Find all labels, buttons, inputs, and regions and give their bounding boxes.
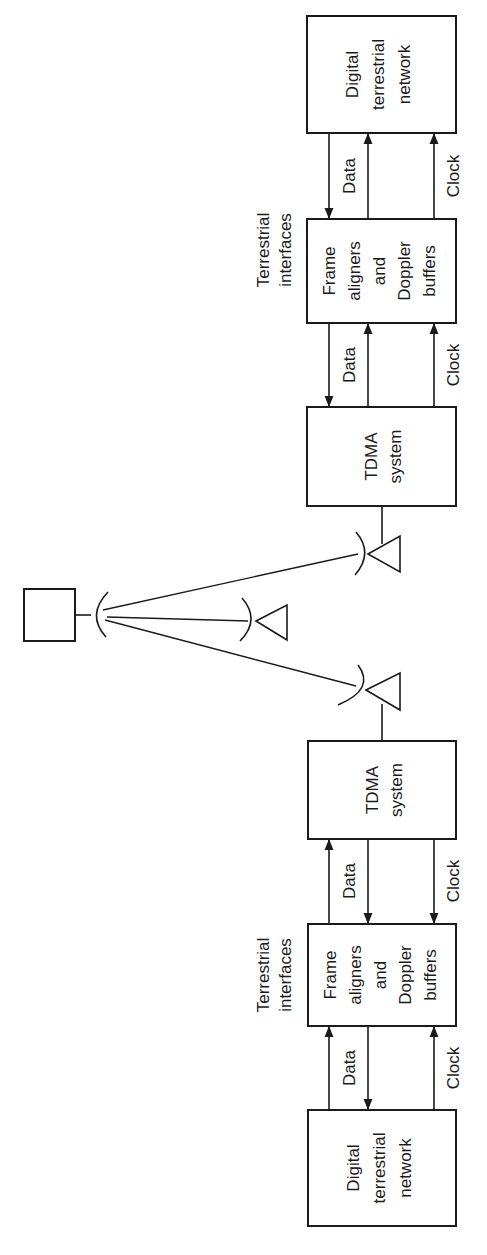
network-box-b: Digital terrestrial network <box>307 16 456 133</box>
network-box-b-line2: terrestrial <box>369 39 388 110</box>
clock-label: Clock <box>444 859 463 902</box>
earth-antenna-a-icon <box>338 665 400 710</box>
buffer-box-b: Frame aligners and Doppler buffers <box>307 219 456 323</box>
svg-text:terrestrial: terrestrial <box>370 1133 389 1204</box>
svg-text:Frame: Frame <box>320 246 339 295</box>
svg-text:Terrestrial: Terrestrial <box>254 213 273 288</box>
network-box-b-line3: network <box>395 44 414 104</box>
svg-text:aligners: aligners <box>346 945 365 1005</box>
earth-antenna-middle-icon <box>240 598 287 641</box>
station-b: Digital terrestrial network Data Clock T… <box>254 16 463 544</box>
svg-text:Doppler: Doppler <box>395 241 414 301</box>
tdma-box-b: TDMA system <box>307 407 456 506</box>
clock-label: Clock <box>444 154 463 197</box>
links-buffer-tdma-b: Data Clock <box>329 323 463 407</box>
svg-text:network: network <box>396 1138 415 1198</box>
svg-text:TDMA: TDMA <box>362 432 381 481</box>
svg-text:TDMA: TDMA <box>363 765 382 814</box>
svg-text:and: and <box>370 257 389 285</box>
network-box-b-line1: Digital <box>343 51 362 98</box>
network-box-a: Digital terrestrial network <box>308 1110 456 1226</box>
space-segment <box>24 532 400 710</box>
clock-label: Clock <box>444 343 463 386</box>
data-label: Data <box>340 1050 359 1086</box>
svg-text:Terrestrial: Terrestrial <box>254 938 273 1013</box>
svg-text:buffers: buffers <box>421 949 440 1001</box>
data-label: Data <box>340 347 359 383</box>
links-tdma-buffer-a: Data Clock <box>329 839 463 924</box>
data-label: Data <box>340 863 359 899</box>
svg-text:system: system <box>387 763 406 817</box>
links-buffer-network-a: Data Clock <box>329 1026 463 1110</box>
svg-text:interfaces: interfaces <box>276 213 295 287</box>
earth-antenna-b-icon <box>355 532 400 575</box>
buffer-box-a: Frame aligners and Doppler buffers <box>308 924 456 1026</box>
svg-text:system: system <box>386 430 405 484</box>
svg-text:interfaces: interfaces <box>276 938 295 1012</box>
satellite-icon <box>24 589 108 641</box>
svg-text:Digital: Digital <box>344 1144 363 1191</box>
links-network-buffer-b: Data Clock <box>329 133 463 219</box>
svg-text:Frame: Frame <box>321 950 340 999</box>
tdma-box-a: TDMA system <box>308 741 456 839</box>
svg-text:buffers: buffers <box>420 245 439 297</box>
terrestrial-interfaces-label-a: Terrestrial interfaces <box>254 938 295 1013</box>
terrestrial-interfaces-label-b: Terrestrial interfaces <box>254 213 295 288</box>
svg-text:aligners: aligners <box>345 241 364 301</box>
tdma-satellite-link-diagram: Digital terrestrial network Data Clock T… <box>0 0 487 1255</box>
clock-label: Clock <box>444 1046 463 1089</box>
svg-text:and: and <box>371 961 390 989</box>
data-label: Data <box>340 158 359 194</box>
station-a: TDMA system Data Clock Terrestrial inter… <box>254 704 463 1226</box>
svg-text:Doppler: Doppler <box>396 945 415 1005</box>
